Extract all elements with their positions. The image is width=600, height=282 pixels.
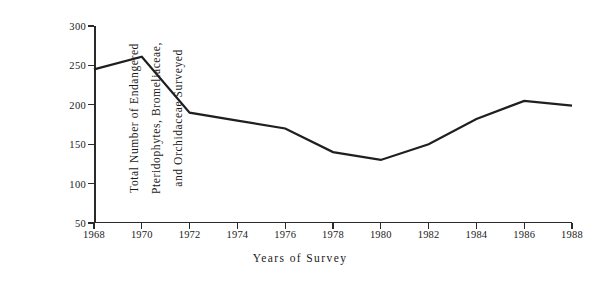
x-tick-label: 1972 bbox=[179, 229, 201, 240]
x-tick-label: 1986 bbox=[513, 229, 535, 240]
x-tick-label: 1980 bbox=[370, 229, 392, 240]
x-tick-label: 1970 bbox=[131, 229, 153, 240]
x-tick-label: 1974 bbox=[226, 229, 248, 240]
y-tick-label: 100 bbox=[69, 178, 86, 189]
series-line-survey-totals bbox=[94, 26, 572, 223]
plot-area: 30025020015010050 1968197019721974197619… bbox=[94, 26, 572, 223]
y-tick-label: 150 bbox=[69, 139, 86, 150]
y-axis-title: Total Number of Endangered Pteridophytes… bbox=[8, 8, 82, 228]
x-tick-label: 1982 bbox=[418, 229, 440, 240]
x-tick-label: 1978 bbox=[322, 229, 344, 240]
x-tick-label: 1988 bbox=[561, 229, 583, 240]
y-tick-label: 250 bbox=[69, 60, 86, 71]
x-tick-label: 1984 bbox=[465, 229, 487, 240]
x-tick-label: 1968 bbox=[83, 229, 105, 240]
y-tick-label: 50 bbox=[75, 218, 86, 229]
chart-page: Total Number of Endangered Pteridophytes… bbox=[0, 0, 600, 282]
y-tick-label: 300 bbox=[69, 21, 86, 32]
y-tick-label: 200 bbox=[69, 99, 86, 110]
x-tick-label: 1976 bbox=[274, 229, 296, 240]
x-axis-title: Years of Survey bbox=[0, 252, 600, 264]
